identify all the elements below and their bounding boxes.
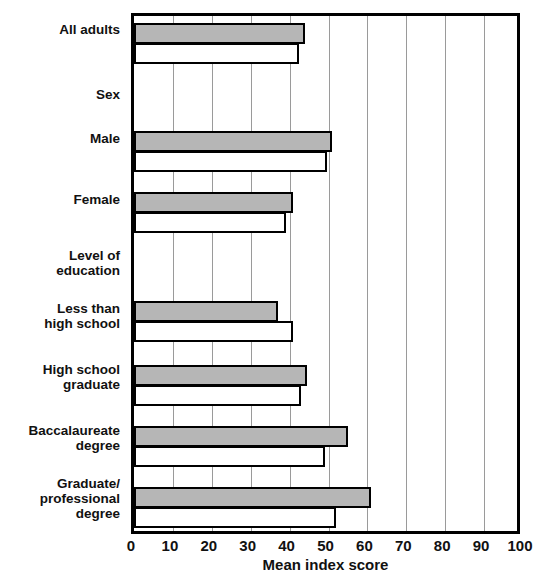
bar-series-gray-7 (134, 426, 348, 447)
category-axis-labels: All adultsSexMaleFemaleLevel of educatio… (0, 13, 126, 534)
x-tick-label-80: 80 (434, 537, 451, 554)
category-label-8: Graduate/ professional degree (40, 476, 120, 521)
category-label-1: Sex (96, 87, 120, 102)
bar-series-gray-3 (134, 192, 293, 213)
bar-series-gray-0 (134, 23, 305, 44)
x-tick-label-90: 90 (473, 537, 490, 554)
gridline (484, 16, 485, 531)
category-label-7: Baccalaureate degree (28, 423, 120, 453)
category-label-0: All adults (59, 22, 120, 37)
category-label-6: High school graduate (43, 362, 120, 392)
bar-series-gray-2 (134, 131, 332, 152)
bar-series-white-3 (134, 212, 286, 233)
chart-title (0, 0, 553, 3)
category-label-3: Female (73, 192, 120, 207)
category-label-2: Male (90, 131, 120, 146)
bar-chart: All adultsSexMaleFemaleLevel of educatio… (0, 0, 553, 579)
gridline (329, 16, 330, 531)
gridline (445, 16, 446, 531)
bar-series-gray-5 (134, 301, 278, 322)
bar-series-white-8 (134, 507, 336, 528)
x-tick-label-0: 0 (127, 537, 135, 554)
bar-series-white-2 (134, 151, 327, 172)
bar-series-white-6 (134, 385, 301, 406)
bar-series-white-0 (134, 43, 299, 64)
bar-series-gray-6 (134, 365, 307, 386)
bar-series-white-7 (134, 446, 325, 467)
x-axis-title: Mean index score (131, 556, 520, 573)
x-tick-label-40: 40 (278, 537, 295, 554)
x-tick-label-70: 70 (395, 537, 412, 554)
x-tick-label-60: 60 (356, 537, 373, 554)
plot-area (131, 13, 520, 534)
x-tick-label-10: 10 (162, 537, 179, 554)
category-label-4: Level of education (56, 248, 120, 278)
category-label-5: Less than high school (44, 301, 120, 331)
gridline (367, 16, 368, 531)
x-tick-label-30: 30 (239, 537, 256, 554)
x-tick-label-100: 100 (507, 537, 532, 554)
bar-series-gray-8 (134, 487, 371, 508)
plot-inner (134, 16, 517, 531)
gridline (406, 16, 407, 531)
bar-series-white-5 (134, 321, 293, 342)
x-tick-label-20: 20 (200, 537, 217, 554)
x-tick-label-50: 50 (317, 537, 334, 554)
